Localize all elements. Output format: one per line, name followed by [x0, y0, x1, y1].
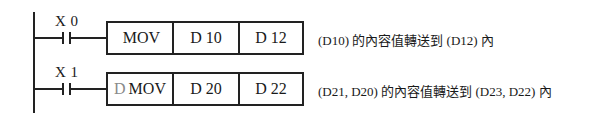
contact-no-icon [62, 83, 64, 95]
wire [34, 37, 62, 39]
rung-description: (D21, D20) 的內容值轉送到 (D23, D22) 內 [318, 81, 552, 100]
opcode: MOV [123, 29, 160, 47]
opcode-cell: D MOV [108, 74, 172, 104]
instruction-block-dmov: D MOV D 20 D 22 [106, 72, 304, 106]
opcode-prefix: D [114, 80, 126, 98]
destination-operand: D 22 [238, 74, 302, 104]
wire [70, 37, 107, 39]
instruction-block-mov: MOV D 10 D 12 [106, 21, 304, 55]
contact-label-x0: X 0 [55, 14, 79, 29]
contact-no-icon [62, 32, 64, 44]
power-rail [33, 12, 35, 113]
contact-label-x1: X 1 [55, 65, 79, 80]
source-operand: D 20 [172, 74, 238, 104]
wire [34, 88, 62, 90]
source-operand: D 10 [172, 23, 238, 53]
rung-description: (D10) 的內容值轉送到 (D12) 內 [318, 30, 494, 49]
opcode-cell: MOV [108, 23, 172, 53]
opcode: MOV [129, 80, 166, 98]
destination-operand: D 12 [238, 23, 302, 53]
wire [70, 88, 107, 90]
